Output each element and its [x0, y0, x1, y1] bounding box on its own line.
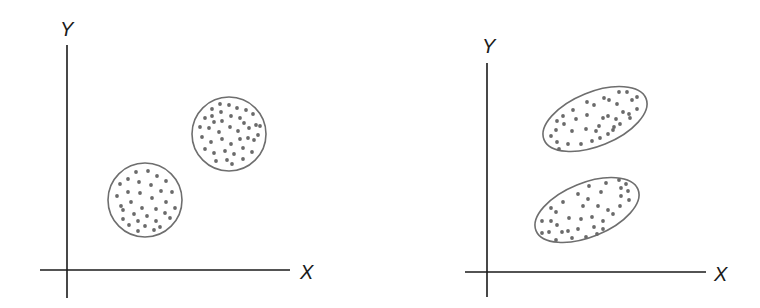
right-cluster-lower — [526, 164, 648, 255]
left-panel: Y X — [40, 18, 314, 298]
data-points — [198, 102, 262, 166]
left-cluster-upper — [192, 97, 266, 171]
cluster-boundary — [534, 73, 656, 164]
right-y-label: Y — [482, 35, 497, 57]
right-panel: Y X — [465, 35, 728, 297]
right-x-label: X — [713, 263, 728, 285]
left-y-label: Y — [60, 18, 75, 40]
left-x-label: X — [299, 261, 314, 283]
cluster-boundary — [526, 164, 648, 255]
left-cluster-lower — [108, 163, 182, 237]
data-points — [115, 169, 177, 233]
data-points — [540, 178, 631, 242]
cluster-diagram: Y X — [0, 0, 760, 308]
right-cluster-upper — [534, 73, 656, 164]
cluster-boundary — [192, 97, 266, 171]
data-points — [549, 90, 639, 151]
